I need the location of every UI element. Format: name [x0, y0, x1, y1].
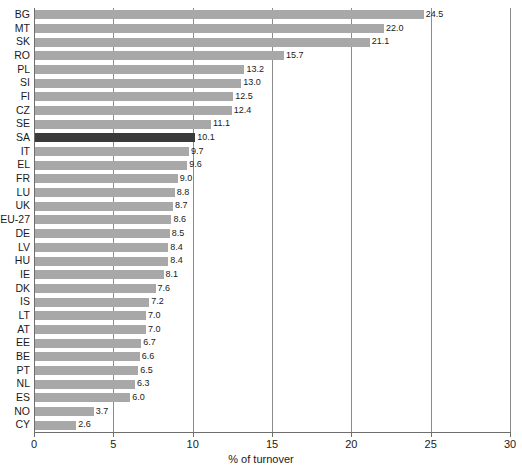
bar-sk	[35, 38, 370, 47]
category-label-lv: LV	[0, 241, 30, 255]
value-label-pl: 13.2	[246, 63, 264, 77]
bar-nl	[35, 380, 135, 389]
category-label-it: IT	[0, 145, 30, 159]
category-label-no: NO	[0, 405, 30, 419]
category-label-fi: FI	[0, 90, 30, 104]
bar-row: LU8.8	[0, 186, 522, 200]
bar-row: SE11.1	[0, 117, 522, 131]
bar-row: FR9.0	[0, 172, 522, 186]
category-label-el: EL	[0, 158, 30, 172]
x-tick-mark-0	[34, 432, 35, 437]
bar-es	[35, 393, 130, 402]
x-tick-label-30: 30	[504, 438, 516, 450]
value-label-ie: 8.1	[166, 268, 179, 282]
bar-lu	[35, 188, 175, 197]
bar-pl	[35, 65, 244, 74]
category-label-be: BE	[0, 350, 30, 364]
category-label-eu-27: EU-27	[0, 213, 30, 227]
value-label-fi: 12.5	[235, 90, 253, 104]
x-tick-mark-20	[351, 432, 352, 437]
bar-sa	[35, 133, 195, 142]
value-label-uk: 8.7	[175, 199, 188, 213]
value-label-ro: 15.7	[286, 49, 304, 63]
bar-row: IE8.1	[0, 268, 522, 282]
bar-se	[35, 120, 211, 129]
value-label-eu-27: 8.6	[173, 213, 186, 227]
category-label-pt: PT	[0, 364, 30, 378]
bar-row: NO3.7	[0, 405, 522, 419]
category-label-si: SI	[0, 76, 30, 90]
bar-it	[35, 147, 189, 156]
value-label-no: 3.7	[96, 405, 109, 419]
value-label-lv: 8.4	[170, 241, 183, 255]
bar-de	[35, 229, 170, 238]
category-label-fr: FR	[0, 172, 30, 186]
bar-row: EE6.7	[0, 336, 522, 350]
x-tick-mark-10	[193, 432, 194, 437]
category-label-es: ES	[0, 391, 30, 405]
bar-fr	[35, 174, 178, 183]
bar-row: IT9.7	[0, 145, 522, 159]
bar-row: PT6.5	[0, 364, 522, 378]
value-label-at: 7.0	[148, 323, 161, 337]
bar-eu-27	[35, 215, 171, 224]
category-label-lt: LT	[0, 309, 30, 323]
bar-ee	[35, 339, 141, 348]
category-label-hu: HU	[0, 254, 30, 268]
bar-row: EL9.6	[0, 158, 522, 172]
bar-row: EU-278.6	[0, 213, 522, 227]
bar-mt	[35, 24, 384, 33]
bar-is	[35, 298, 149, 307]
x-tick-mark-25	[431, 432, 432, 437]
value-label-el: 9.6	[189, 158, 202, 172]
value-label-be: 6.6	[142, 350, 155, 364]
bar-row: IS7.2	[0, 295, 522, 309]
bar-row: NL6.3	[0, 377, 522, 391]
bar-bg	[35, 10, 424, 19]
bar-row: SK21.1	[0, 35, 522, 49]
bar-row: LV8.4	[0, 241, 522, 255]
bar-uk	[35, 202, 173, 211]
bar-chart: 051015202530 BG24.5MT22.0SK21.1RO15.7PL1…	[0, 0, 522, 471]
bar-row: HU8.4	[0, 254, 522, 268]
bar-be	[35, 352, 140, 361]
category-label-ro: RO	[0, 49, 30, 63]
value-label-pt: 6.5	[140, 364, 153, 378]
x-tick-label-5: 5	[110, 438, 116, 450]
value-label-lu: 8.8	[177, 186, 190, 200]
x-tick-mark-30	[510, 432, 511, 437]
bar-cz	[35, 106, 232, 115]
category-label-se: SE	[0, 117, 30, 131]
x-tick-label-15: 15	[266, 438, 278, 450]
bar-row: LT7.0	[0, 309, 522, 323]
category-label-ie: IE	[0, 268, 30, 282]
value-label-si: 13.0	[243, 76, 261, 90]
value-label-ee: 6.7	[143, 336, 156, 350]
category-label-nl: NL	[0, 377, 30, 391]
bar-at	[35, 325, 146, 334]
bar-row: CY2.6	[0, 418, 522, 432]
category-label-is: IS	[0, 295, 30, 309]
bar-row: AT7.0	[0, 323, 522, 337]
bar-row: BE6.6	[0, 350, 522, 364]
value-label-sk: 21.1	[372, 35, 390, 49]
x-tick-label-25: 25	[425, 438, 437, 450]
x-tick-mark-5	[113, 432, 114, 437]
x-tick-label-0: 0	[31, 438, 37, 450]
category-label-dk: DK	[0, 282, 30, 296]
value-label-it: 9.7	[191, 145, 204, 159]
bar-row: SA10.1	[0, 131, 522, 145]
value-label-es: 6.0	[132, 391, 145, 405]
bar-dk	[35, 284, 156, 293]
category-label-cz: CZ	[0, 104, 30, 118]
bar-cy	[35, 421, 76, 430]
value-label-se: 11.1	[213, 117, 230, 131]
value-label-cy: 2.6	[78, 418, 91, 432]
bar-ro	[35, 51, 284, 60]
value-label-is: 7.2	[151, 295, 164, 309]
value-label-fr: 9.0	[180, 172, 193, 186]
x-tick-label-10: 10	[187, 438, 199, 450]
category-label-bg: BG	[0, 8, 30, 22]
bar-pt	[35, 366, 138, 375]
category-label-uk: UK	[0, 199, 30, 213]
